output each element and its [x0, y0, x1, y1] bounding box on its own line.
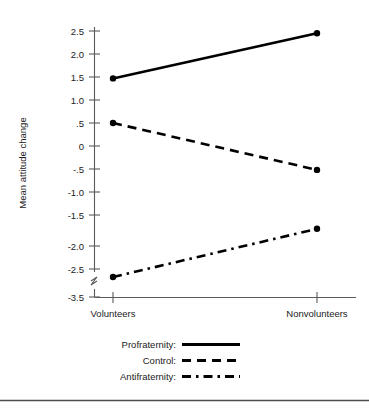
series-antifraternity [110, 226, 320, 281]
y-axis-break-icon [91, 277, 97, 285]
data-point-profraternity-nonvolunteers [314, 30, 320, 36]
legend-label-antifraternity: Antifraternity: [120, 371, 176, 382]
attitude-change-line-chart: 2.5 2.0 1.5 1.0 .5 0 -.5 -1.0 -1.5 -2.0 … [0, 0, 369, 416]
y-tick-label-neg-2-0: -2.0 [68, 241, 84, 252]
legend-entry-antifraternity: Antifraternity: [120, 371, 240, 382]
legend-label-control: Control: [143, 355, 176, 366]
y-tick-label-0: 0 [79, 141, 84, 152]
legend-label-profraternity: Profraternity: [122, 339, 176, 350]
series-control-line [113, 123, 317, 170]
y-tick-label-2-0: 2.0 [71, 49, 84, 60]
y-tick-label-1-0: 1.0 [71, 95, 84, 106]
data-point-control-volunteers [110, 120, 116, 126]
series-profraternity [110, 30, 320, 82]
x-tick-label-nonvolunteers: Nonvolunteers [286, 308, 348, 319]
series-antifraternity-line [113, 229, 317, 277]
series-control [110, 120, 320, 173]
legend: Profraternity: Control: Antifraternity: [120, 339, 240, 382]
x-tick-label-volunteers: Volunteers [91, 308, 136, 319]
data-point-profraternity-volunteers [110, 75, 116, 81]
figure-container: 2.5 2.0 1.5 1.0 .5 0 -.5 -1.0 -1.5 -2.0 … [0, 0, 369, 416]
y-tick-label-1-5: 1.5 [71, 72, 84, 83]
y-axis-title: Mean attitude change [17, 117, 28, 208]
y-tick-label-neg-1-0: -1.0 [68, 187, 84, 198]
legend-entry-profraternity: Profraternity: [122, 339, 240, 350]
legend-entry-control: Control: [143, 355, 240, 366]
data-point-control-nonvolunteers [314, 167, 320, 173]
y-tick-label-neg-3-5: -3.5 [68, 292, 84, 303]
y-tick-label-2-5: 2.5 [71, 26, 84, 37]
y-tick-label-neg-1-5: -1.5 [68, 210, 84, 221]
data-point-antifraternity-volunteers [110, 274, 116, 280]
data-point-antifraternity-nonvolunteers [314, 226, 320, 232]
series-profraternity-line [113, 33, 317, 78]
y-tick-label-neg-2-5: -2.5 [68, 264, 84, 275]
y-tick-label-neg-0-5: -.5 [73, 164, 84, 175]
y-tick-label-0-5: .5 [76, 118, 84, 129]
